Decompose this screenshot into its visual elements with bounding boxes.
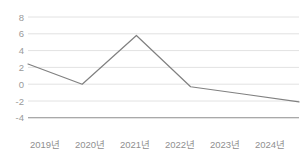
ytick-label-6: 6 (4, 29, 24, 39)
line-chart: 8 6 4 2 0 -2 -4 2019년 2020년 2021년 2022년 … (0, 0, 305, 162)
gridlines (28, 17, 299, 101)
chart-canvas (0, 0, 305, 162)
ytick-label-neg2: -2 (4, 97, 24, 107)
ytick-label-neg4: -4 (4, 113, 24, 123)
xtick-label-2024: 2024년 (237, 140, 303, 150)
ytick-label-2: 2 (4, 63, 24, 73)
ytick-label-8: 8 (4, 13, 24, 23)
ytick-label-0: 0 (4, 80, 24, 90)
data-series-line (28, 35, 299, 101)
ytick-label-4: 4 (4, 46, 24, 56)
